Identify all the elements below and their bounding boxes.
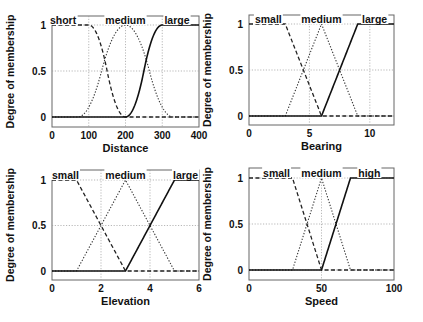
x-tick-label: 200 [117,130,134,141]
mf-label-small: small [263,167,290,179]
plot-area [52,16,199,127]
x-tick-label: 0 [246,283,252,294]
y-tick-label: 1 [237,173,243,184]
y-tick-label: 0.5 [32,66,46,77]
x-axis-label: Distance [103,142,149,154]
x-tick-label: 300 [154,130,171,141]
y-axis-label: Degree of membership [4,168,16,282]
y-tick-label: 0.5 [229,65,243,76]
y-tick-label: 0.5 [229,219,243,230]
y-axis-label: Degree of membership [201,13,213,127]
mf-label-large: large [164,14,189,26]
x-tick-label: 100 [80,130,97,141]
y-axis-label: Degree of membership [4,15,16,129]
x-tick-label: 5 [307,128,313,139]
y-tick-label: 1 [237,19,243,30]
x-axis-label: Bearing [301,140,342,152]
chart-panel-speed: 05010000.51SpeedDegree of membershipsmal… [201,167,403,307]
mf-label-medium: medium [105,14,145,26]
mf-label-large: large [362,13,387,25]
x-tick-label: 10 [364,128,376,139]
mf-label-medium: medium [301,13,341,25]
mf-label-medium: medium [301,167,341,179]
y-tick-label: 0.5 [32,220,46,231]
x-axis-label: Speed [305,295,338,307]
y-axis-label: Degree of membership [201,167,213,281]
x-tick-label: 6 [196,283,202,294]
y-tick-label: 1 [40,175,46,186]
y-tick-label: 0 [237,265,243,276]
x-axis-label: Elevation [101,295,150,307]
chart-panel-distance: 010020030040000.51DistanceDegree of memb… [4,14,208,154]
x-tick-label: 400 [191,130,208,141]
x-tick-label: 0 [49,130,55,141]
plot-area [52,170,199,280]
mf-label-short: short [50,14,77,26]
mf-label-small: small [52,169,79,181]
mf-label-large: large [173,169,198,181]
chart-panel-bearing: 051000.51BearingDegree of membershipsmal… [201,13,394,152]
x-tick-label: 2 [98,283,104,294]
y-tick-label: 0 [237,111,243,122]
chart-panel-elevation: 024600.51ElevationDegree of membershipsm… [4,168,202,307]
mf-label-medium: medium [105,169,145,181]
y-tick-label: 0 [40,266,46,277]
x-tick-label: 100 [386,283,403,294]
y-tick-label: 1 [40,20,46,31]
x-tick-label: 4 [147,283,153,294]
y-tick-label: 0 [40,112,46,123]
mf-label-small: small [255,13,282,25]
x-tick-label: 0 [49,283,55,294]
membership-functions-figure: 010020030040000.51DistanceDegree of memb… [0,0,423,322]
x-tick-label: 50 [316,283,328,294]
x-tick-label: 0 [246,128,252,139]
mf-label-high: high [358,167,380,179]
